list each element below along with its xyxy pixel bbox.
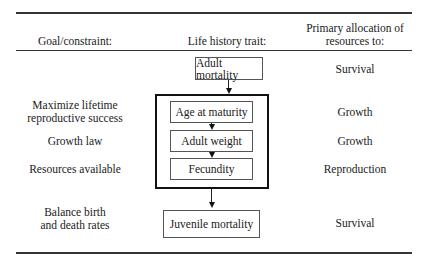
- allocation-adult-mortality: Survival: [300, 63, 410, 76]
- allocation-adult-weight: Growth: [300, 135, 410, 148]
- arrow-head-4: [209, 202, 215, 208]
- goal-maximize-1: Maximize lifetime: [20, 99, 130, 112]
- top-rule: [16, 12, 412, 14]
- goal-maximize-2: reproductive success: [20, 112, 130, 125]
- adult-mortality-box: Adult mortality: [195, 57, 263, 80]
- bottom-rule: [16, 252, 412, 254]
- header-rule: [16, 50, 412, 51]
- allocation-fecundity: Reproduction: [300, 163, 410, 176]
- age-at-maturity-box: Age at maturity: [170, 101, 253, 123]
- allocation-juvenile-mortality: Survival: [300, 217, 410, 230]
- adult-weight-box: Adult weight: [170, 130, 253, 152]
- goal-balance-2: and death rates: [20, 219, 130, 232]
- header-allocation-2: resources to:: [300, 35, 410, 48]
- goal-balance-1: Balance birth: [20, 206, 130, 219]
- juvenile-mortality-box: Juvenile mortality: [163, 210, 260, 238]
- goal-growth-law: Growth law: [20, 135, 130, 148]
- goal-resources: Resources available: [20, 163, 130, 176]
- allocation-age-at-maturity: Growth: [300, 106, 410, 119]
- header-goal: Goal/constraint:: [20, 35, 130, 48]
- arrow-line-4: [211, 189, 212, 203]
- header-allocation-1: Primary allocation of: [300, 22, 410, 35]
- header-trait: Life history trait:: [172, 35, 282, 48]
- fecundity-box: Fecundity: [170, 158, 253, 180]
